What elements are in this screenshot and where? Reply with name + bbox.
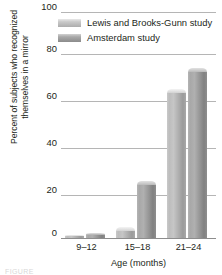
figure-caption: FIGURE xyxy=(5,268,34,274)
bar-amsterdam-15-18[interactable] xyxy=(137,181,156,238)
x-tick-label-21-24: 21–24 xyxy=(163,243,214,252)
y-tick-label-40: 40 xyxy=(47,138,57,147)
legend-item-amsterdam[interactable]: Amsterdam study xyxy=(58,32,222,45)
y-tick-label-20: 20 xyxy=(47,185,57,194)
y-tick-label-80: 80 xyxy=(47,44,57,53)
y-tick-label-60: 60 xyxy=(47,91,57,100)
y-tick-label-0: 0 xyxy=(52,228,57,237)
gridline-0-axis: 0 xyxy=(61,238,216,239)
bar-lewis-15-18[interactable] xyxy=(116,227,135,238)
y-tick-label-100: 100 xyxy=(41,2,57,11)
bar-body xyxy=(86,235,105,238)
bar-body xyxy=(65,236,84,238)
y-axis-title-line-2: themselves in a mirror xyxy=(20,0,31,175)
x-axis-title: Age (months) xyxy=(61,259,216,268)
legend-label-amsterdam: Amsterdam study xyxy=(87,32,160,44)
bar-lewis-21-24[interactable] xyxy=(167,89,186,238)
bar-amsterdam-21-24[interactable] xyxy=(188,68,207,238)
bar-body xyxy=(116,231,135,238)
x-tick-label-9-12: 9–12 xyxy=(61,243,112,252)
bar-chart-figure: Percent of subjects who recognized thems… xyxy=(0,0,222,275)
legend-item-lewis[interactable]: Lewis and Brooks-Gunn study xyxy=(58,17,222,30)
legend-label-lewis: Lewis and Brooks-Gunn study xyxy=(87,17,212,29)
y-axis-title-line-1: Percent of subjects who recognized xyxy=(9,0,20,175)
bar-amsterdam-9-12[interactable] xyxy=(86,233,105,238)
bar-body xyxy=(167,93,186,238)
legend-swatch-icon-amsterdam xyxy=(58,34,81,42)
bar-lewis-9-12[interactable] xyxy=(65,235,84,238)
x-tick-label-15-18: 15–18 xyxy=(112,243,163,252)
bar-body xyxy=(137,185,156,238)
bar-body xyxy=(188,72,207,238)
legend-swatch-icon-lewis xyxy=(58,19,81,27)
legend: Lewis and Brooks-Gunn study Amsterdam st… xyxy=(58,17,222,47)
y-axis-title: Percent of subjects who recognized thems… xyxy=(9,0,35,175)
